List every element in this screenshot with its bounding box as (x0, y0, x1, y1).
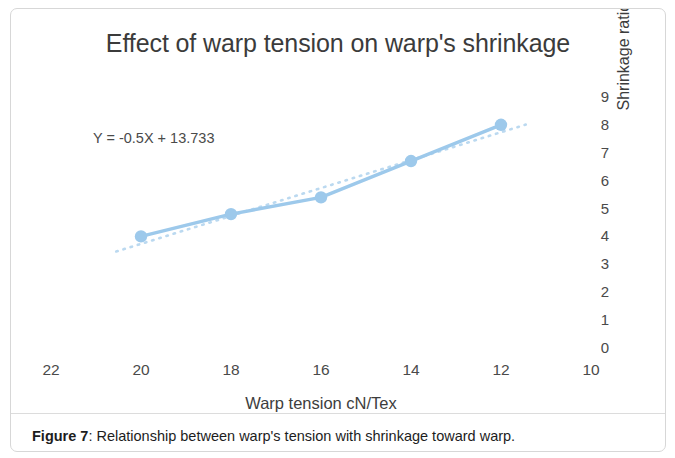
figure-caption-label: Figure 7 (32, 428, 88, 444)
x-tick-label: 14 (386, 362, 436, 378)
y-tick-label: 0 (592, 340, 618, 355)
chart-area: Effect of warp tension on warp's shrinka… (11, 9, 665, 413)
y-tick-label: 2 (592, 284, 618, 299)
data-point-marker (405, 155, 417, 167)
data-point-marker (225, 208, 237, 220)
x-tick-label: 20 (116, 362, 166, 378)
figure-panel: Effect of warp tension on warp's shrinka… (10, 8, 666, 452)
y-tick-label: 6 (592, 173, 618, 188)
trendline-group (116, 125, 526, 252)
x-tick-label: 16 (296, 362, 346, 378)
x-tick-label: 22 (26, 362, 76, 378)
trendline (116, 125, 526, 252)
y-tick-label: 5 (592, 201, 618, 216)
y-tick-label: 1 (592, 312, 618, 327)
x-tick-label: 10 (566, 362, 616, 378)
plot-canvas (11, 9, 665, 413)
series-line-group (141, 125, 501, 237)
x-tick-label: 18 (206, 362, 256, 378)
x-axis-title: Warp tension cN/Tex (131, 394, 511, 413)
caption-divider (11, 413, 665, 414)
y-axis-title: Shrinkage ratio (%) (615, 8, 633, 137)
series-line (141, 125, 501, 237)
y-tick-label: 4 (592, 228, 618, 243)
data-point-marker (135, 230, 147, 242)
figure-caption-text: Relationship between warp's tension with… (96, 428, 515, 444)
data-point-marker (495, 119, 507, 131)
y-tick-label: 3 (592, 256, 618, 271)
figure-caption: Figure 7: Relationship between warp's te… (32, 428, 652, 444)
data-point-marker (315, 191, 327, 203)
y-tick-label: 7 (592, 145, 618, 160)
x-tick-label: 12 (476, 362, 526, 378)
